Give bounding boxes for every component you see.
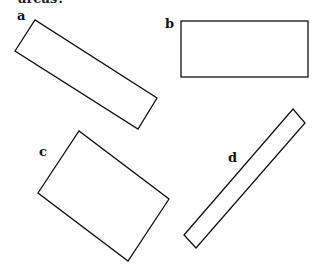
label-c: c — [39, 144, 47, 159]
rectangle-d — [184, 109, 305, 248]
label-b: b — [165, 16, 174, 31]
rectangle-b — [181, 21, 308, 77]
rectangles-diagram — [0, 0, 326, 273]
label-a: a — [17, 8, 25, 23]
rectangle-c — [38, 131, 169, 261]
label-d: d — [228, 150, 237, 165]
rectangle-a — [15, 20, 157, 129]
